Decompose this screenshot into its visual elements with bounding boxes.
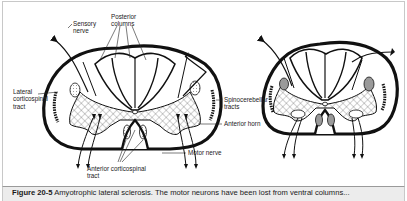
caption-text: Amyotrophic lateral sclerosis. The motor… (53, 188, 350, 197)
label-motor-nerve: Motor nerve (188, 149, 222, 156)
als-spinal-cord (262, 40, 397, 159)
label-posterior-columns: Posterior columns (111, 13, 136, 28)
label-spinocerebellar-tracts: Spinocerebellar tracts (224, 96, 268, 111)
label-sensory-nerve: Sensory nerve (73, 20, 96, 35)
label-anterior-corticospinal-tract: Anterior corticospinal tract (87, 165, 146, 180)
caption-label: Figure 20-5 (12, 188, 53, 197)
label-lateral-corticospinal-tract: Lateral corticospinal tract (13, 88, 48, 110)
label-anterior-horn: Anterior horn (224, 120, 260, 127)
spinal-cord-diagram (0, 0, 407, 201)
figure-caption: Figure 20-5 Amyotrophic lateral sclerosi… (12, 188, 350, 197)
